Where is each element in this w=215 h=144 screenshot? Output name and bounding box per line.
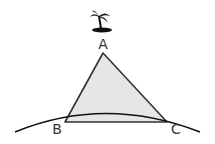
- vertex-label-c: C: [171, 121, 181, 137]
- triangle-diagram: A B C: [0, 0, 215, 144]
- palm-tree-island-icon: [90, 11, 112, 33]
- vertex-label-a: A: [98, 36, 108, 52]
- vertex-label-b: B: [52, 121, 62, 137]
- triangle-abc: [65, 53, 167, 122]
